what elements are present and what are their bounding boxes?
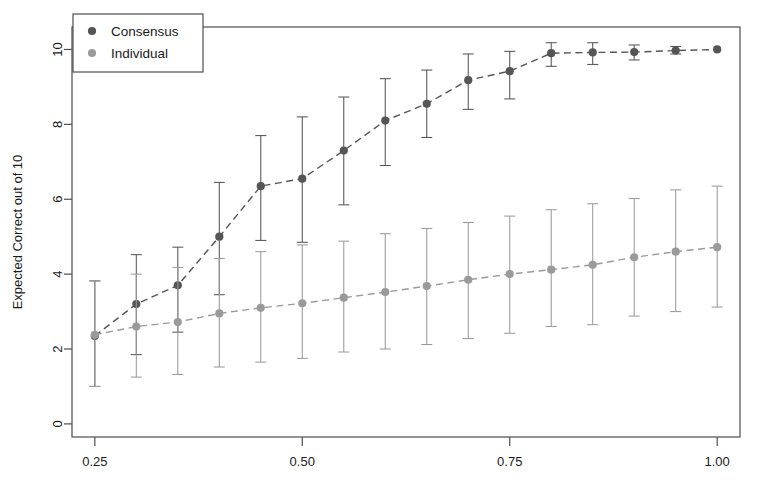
y-axis-label: Expected Correct out of 10 <box>10 155 25 310</box>
data-point <box>257 304 265 312</box>
data-point <box>381 288 389 296</box>
legend-marker-individual <box>88 49 96 57</box>
y-tick-label: 10 <box>51 42 66 56</box>
data-point <box>340 146 348 154</box>
data-point <box>257 182 265 190</box>
data-point <box>215 233 223 241</box>
data-point <box>713 45 721 53</box>
data-point <box>174 318 182 326</box>
data-point <box>340 294 348 302</box>
x-tick-label: 0.25 <box>82 454 107 469</box>
y-axis-ticks: 0246810 <box>51 42 73 427</box>
data-point <box>547 266 555 274</box>
data-point <box>630 253 638 261</box>
y-axis-title: Expected Correct out of 10 <box>10 155 25 310</box>
data-point <box>672 46 680 54</box>
data-point <box>215 309 223 317</box>
y-tick-label: 4 <box>51 271 66 278</box>
data-point <box>547 49 555 57</box>
data-point <box>464 276 472 284</box>
data-point <box>506 67 514 75</box>
series-consensus <box>89 43 721 387</box>
series-line <box>95 49 717 335</box>
series-individual <box>89 186 722 386</box>
legend-label-individual: Individual <box>111 46 168 61</box>
legend-label-consensus: Consensus <box>111 24 179 39</box>
series-line <box>95 247 717 335</box>
data-point <box>630 48 638 56</box>
data-point <box>464 76 472 84</box>
y-tick-label: 6 <box>51 196 66 203</box>
x-tick-label: 0.50 <box>290 454 315 469</box>
plot-canvas: Expected Correct out of 10 0246810 0.250… <box>0 0 757 493</box>
data-point <box>713 243 721 251</box>
x-tick-label: 0.75 <box>497 454 522 469</box>
data-point <box>423 100 431 108</box>
data-series-layer <box>89 43 722 387</box>
y-tick-label: 0 <box>51 420 66 427</box>
data-point <box>298 299 306 307</box>
data-point <box>298 175 306 183</box>
legend-marker-consensus <box>88 27 96 35</box>
data-point <box>589 261 597 269</box>
chart-figure: Expected Correct out of 10 0246810 0.250… <box>0 0 757 493</box>
data-point <box>672 248 680 256</box>
y-tick-label: 2 <box>51 345 66 352</box>
data-point <box>91 331 99 339</box>
x-tick-label: 1.00 <box>705 454 730 469</box>
data-point <box>381 117 389 125</box>
chart-legend: ConsensusIndividual <box>73 14 203 72</box>
data-point <box>132 322 140 330</box>
data-point <box>589 48 597 56</box>
x-axis-ticks: 0.250.500.751.00 <box>82 437 730 469</box>
data-point <box>423 282 431 290</box>
y-tick-label: 8 <box>51 121 66 128</box>
plot-border <box>72 27 740 437</box>
plot-frame <box>72 27 740 437</box>
data-point <box>506 270 514 278</box>
